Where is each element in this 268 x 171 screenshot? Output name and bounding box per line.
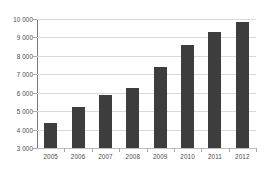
- value-axis-tick-label: 9 000: [17, 34, 33, 41]
- category-axis-label: 2011: [208, 153, 222, 160]
- bar-chart-figure: 3 0004 0005 0006 0007 0008 0009 00010 00…: [0, 0, 268, 171]
- category-axis-label: 2010: [180, 153, 194, 160]
- value-axis-tick-mark: [33, 130, 37, 131]
- value-axis-tick-label: 7 000: [17, 71, 33, 78]
- category-axis-label: 2005: [43, 153, 57, 160]
- value-axis-tick-label: 4 000: [17, 126, 33, 133]
- value-axis-tick-label: 3 000: [17, 145, 33, 152]
- value-axis-tick-label: 6 000: [17, 89, 33, 96]
- value-axis-tick-mark: [33, 148, 37, 149]
- value-axis-tick-mark: [33, 56, 37, 57]
- value-axis-tick-label: 10 000: [13, 16, 33, 23]
- category-axis-label: 2006: [71, 153, 85, 160]
- value-axis-tick-mark: [33, 93, 37, 94]
- category-axis-tick-mark: [64, 148, 65, 152]
- bars-layer: [37, 19, 256, 148]
- category-axis-tick-mark: [119, 148, 120, 152]
- bar: [72, 107, 85, 148]
- category-axis-label: 2007: [98, 153, 112, 160]
- bar: [44, 123, 57, 148]
- category-axis-tick-mark: [147, 148, 148, 152]
- bar: [236, 22, 249, 148]
- value-axis-tick-label: 8 000: [17, 52, 33, 59]
- category-axis-tick-mark: [201, 148, 202, 152]
- category-axis-tick-mark: [229, 148, 230, 152]
- bar: [126, 88, 139, 148]
- category-axis-tick-mark: [92, 148, 93, 152]
- bar: [154, 67, 167, 148]
- value-axis-tick-label: 5 000: [17, 108, 33, 115]
- category-axis-tick-mark: [174, 148, 175, 152]
- category-axis-label: 2008: [126, 153, 140, 160]
- bar: [181, 45, 194, 148]
- value-axis-tick-mark: [33, 74, 37, 75]
- category-axis-label: 2009: [153, 153, 167, 160]
- plot-area: 3 0004 0005 0006 0007 0008 0009 00010 00…: [37, 19, 256, 148]
- category-axis-tick-mark: [256, 148, 257, 152]
- value-axis-tick-mark: [33, 19, 37, 20]
- value-axis-tick-mark: [33, 37, 37, 38]
- category-axis-label: 2012: [235, 153, 249, 160]
- value-axis-tick-mark: [33, 111, 37, 112]
- bar: [208, 32, 221, 148]
- bar: [99, 95, 112, 148]
